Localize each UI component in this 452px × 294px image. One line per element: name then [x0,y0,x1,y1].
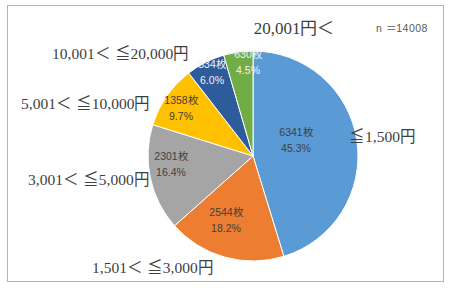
slice-value-3: 1358枚 [146,92,216,108]
slice-percent-5: 4.5% [220,62,276,78]
slice-percent-1: 18.2% [191,220,261,236]
slice-percent-0: 45.3% [261,140,331,156]
slice-value-0: 6341枚 [261,124,331,140]
category-label-3: 5,001＜ ≦10,000円 [21,91,150,113]
category-label-1: 1,501＜ ≦3,000円 [92,255,214,277]
category-label-2: 3,001＜ ≦5,000円 [28,167,150,189]
chart-frame: 20,001円＜ n ＝14008 ≦1,500円 1,501＜ ≦3,000円… [7,5,444,282]
slice-value-1: 2544枚 [191,204,261,220]
category-label-4: 10,001＜ ≦20,000円 [52,41,189,63]
plot-area: 20,001円＜ n ＝14008 ≦1,500円 1,501＜ ≦3,000円… [8,6,443,281]
category-label-0: ≦1,500円 [349,124,416,146]
slice-data-label-1: 2544枚 18.2% [191,204,261,237]
slice-data-label-2: 2301枚 16.4% [136,148,206,181]
slice-value-5: 630枚 [220,46,276,62]
slice-value-2: 2301枚 [136,148,206,164]
slice-data-label-3: 1358枚 9.7% [146,92,216,125]
slice-data-label-5: 630枚 4.5% [220,46,276,79]
slice-percent-2: 16.4% [136,164,206,180]
slice-percent-3: 9.7% [146,108,216,124]
slice-data-label-0: 6341枚 45.3% [261,124,331,157]
